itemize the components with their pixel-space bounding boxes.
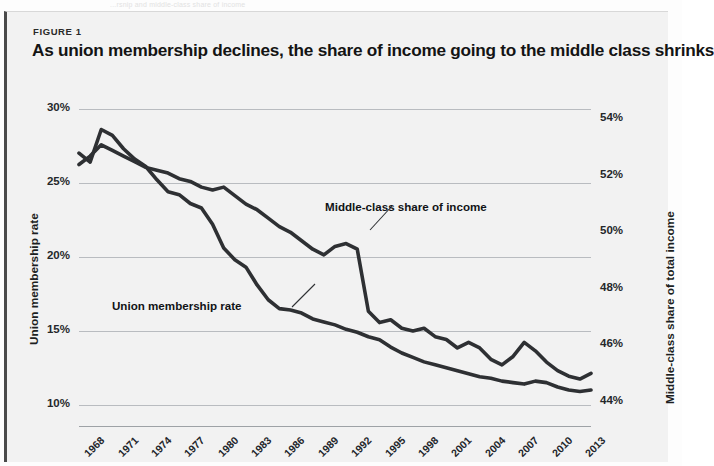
y-axis-left-tick: 20% bbox=[47, 249, 70, 261]
x-axis-tick: 2013 bbox=[575, 434, 608, 466]
x-axis-tick: 1977 bbox=[174, 434, 207, 466]
x-axis-tick: 1980 bbox=[208, 434, 241, 466]
x-axis-tick: 1998 bbox=[408, 434, 441, 466]
figure-container: FIGURE 1 As union membership declines, t… bbox=[4, 11, 668, 462]
x-axis-tick: 1974 bbox=[141, 434, 174, 466]
x-axis-tick: 1989 bbox=[308, 434, 341, 466]
x-axis-tick: 2001 bbox=[441, 434, 474, 466]
y-axis-right-tick: 50% bbox=[600, 224, 623, 236]
y-axis-right-tick: 48% bbox=[600, 281, 623, 293]
figure-title: As union membership declines, the share … bbox=[32, 40, 662, 61]
y-axis-left-tick: 15% bbox=[47, 323, 70, 335]
x-axis-tick: 1995 bbox=[375, 434, 408, 466]
y-axis-right-tick: 54% bbox=[600, 111, 623, 123]
chart-series-group bbox=[79, 94, 591, 427]
y-axis-right-tick: 46% bbox=[600, 337, 623, 349]
y-axis-left-tick: 25% bbox=[47, 175, 70, 187]
x-axis-tick: 1992 bbox=[341, 434, 374, 466]
y-axis-left-tick: 10% bbox=[47, 397, 70, 409]
annotation-union-membership-rate: Union membership rate bbox=[112, 299, 242, 312]
y-axis-left-title: Union membership rate bbox=[27, 213, 41, 345]
x-axis-tick: 1986 bbox=[274, 434, 307, 466]
page-bleed-text: ...rsnip and middle-class share of incom… bbox=[110, 1, 460, 10]
x-axis-tick: 2004 bbox=[475, 434, 508, 466]
y-axis-right-tick: 52% bbox=[600, 168, 623, 180]
chart-plot-area: 30%25%20%15%10%54%52%50%48%46%44%1968197… bbox=[79, 94, 591, 427]
y-axis-left-tick: 30% bbox=[47, 101, 70, 113]
annotation-middle-class-share: Middle-class share of income bbox=[325, 200, 487, 213]
x-axis-tick: 2010 bbox=[542, 434, 575, 466]
x-axis-tick: 1983 bbox=[241, 434, 274, 466]
x-axis-tick: 1968 bbox=[74, 434, 107, 466]
x-axis-tick: 2007 bbox=[508, 434, 541, 466]
y-axis-right-tick: 44% bbox=[600, 394, 623, 406]
figure-number-label: FIGURE 1 bbox=[33, 26, 82, 37]
x-axis-tick: 1971 bbox=[107, 434, 140, 466]
y-axis-right-title: Middle-class share of total income bbox=[663, 211, 677, 404]
annotation-leader-line bbox=[292, 284, 315, 307]
